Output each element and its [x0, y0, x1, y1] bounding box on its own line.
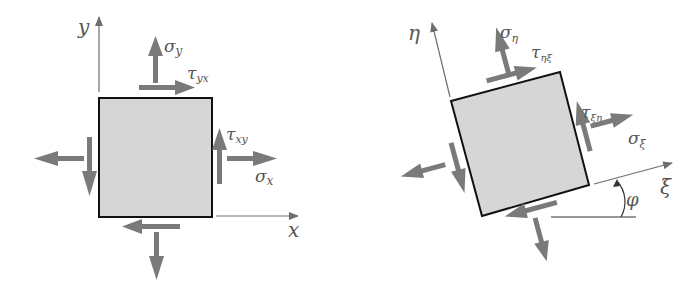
- tau-yx-bottom-arrow: [122, 219, 180, 234]
- sigma-y-bottom-arrow: [149, 232, 164, 280]
- angle-arc: [617, 181, 625, 217]
- tau-xy-label: τxy: [226, 124, 249, 146]
- sigma-x-left-arrow: [34, 151, 84, 166]
- angle-label: φ: [626, 189, 639, 210]
- stress-transformation-diagram: y x σy τyx τxy σx: [0, 0, 699, 294]
- tau-eta-xi-label: τηξ: [531, 42, 552, 63]
- sigma-xi-label: σξ: [628, 128, 647, 151]
- right-panel: η ξ φ ση τηξ τξη σξ: [399, 21, 672, 263]
- eta-axis: [432, 23, 450, 97]
- sigma-eta-label: ση: [500, 22, 519, 45]
- sigma-x-label: σx: [255, 166, 274, 188]
- sigma-x-arrow: [227, 151, 277, 166]
- x-axis-label: x: [288, 218, 299, 242]
- y-axis-label: y: [77, 15, 90, 39]
- tau-yx-label: τyx: [187, 63, 210, 85]
- sigma-y-arrow: [148, 36, 163, 83]
- left-panel: y x σy τyx τxy σx: [34, 15, 299, 280]
- rotated-stress-element: [451, 72, 589, 216]
- tau-xi-eta-label: τξη: [581, 102, 602, 123]
- stress-element: [99, 98, 212, 217]
- eta-axis-label: η: [408, 21, 420, 45]
- sigma-eta-bottom-arrow: [528, 216, 554, 263]
- sigma-y-label: σy: [164, 36, 183, 58]
- tau-xy-left-arrow: [82, 137, 97, 196]
- sigma-xi-left-arrow: [399, 157, 447, 183]
- tau-xy-arrow: [212, 128, 227, 184]
- xi-axis-label: ξ: [660, 175, 672, 199]
